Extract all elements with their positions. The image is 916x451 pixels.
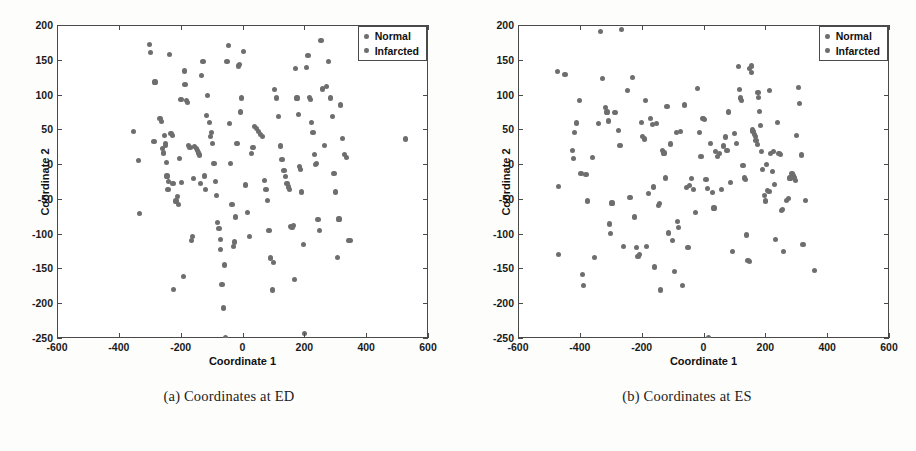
scatter-point: [654, 121, 659, 126]
scatter-point: [695, 86, 700, 91]
x-tick-mark: [428, 25, 429, 30]
scatter-point: [176, 202, 181, 207]
scatter-point: [204, 113, 209, 118]
y-tick-mark: [423, 199, 428, 200]
scatter-point: [250, 145, 255, 150]
scatter-point: [333, 189, 338, 194]
scatter-point: [689, 176, 694, 181]
scatter-point: [170, 181, 175, 186]
scatter-point: [283, 174, 288, 179]
x-tick-label: 600: [419, 341, 437, 353]
scatter-point: [678, 129, 683, 134]
scatter-point: [698, 154, 703, 159]
scatter-point: [287, 187, 292, 192]
scatter-point: [249, 151, 254, 156]
scatter-point: [621, 244, 626, 249]
legend-item-infarcted[interactable]: Infarcted: [825, 46, 880, 57]
scatter-point: [744, 232, 749, 237]
scatter-point: [309, 120, 314, 125]
scatter-point: [308, 97, 313, 102]
scatter-point: [670, 238, 675, 243]
scatter-point: [685, 245, 690, 250]
scatter-point: [708, 141, 713, 146]
scatter-point: [719, 187, 724, 192]
y-tick-mark: [884, 129, 889, 130]
scatter-point: [270, 287, 275, 292]
x-tick-mark: [57, 333, 58, 338]
scatter-point: [318, 38, 323, 43]
x-tick-mark: [642, 333, 643, 338]
legend-item-normal[interactable]: Normal: [825, 31, 880, 42]
scatter-point: [170, 133, 175, 138]
legend-item-normal[interactable]: Normal: [364, 31, 419, 42]
scatter-point: [185, 100, 190, 105]
x-tick-label: 200: [296, 341, 314, 353]
scatter-point: [328, 95, 333, 100]
scatter-point: [764, 162, 769, 167]
scatter-point: [223, 335, 228, 338]
scatter-point: [574, 120, 579, 125]
x-tick-mark: [428, 333, 429, 338]
scatter-point: [304, 65, 309, 70]
scatter-point: [296, 112, 301, 117]
scatter-point: [556, 184, 561, 189]
scatter-canvas-a: [57, 25, 428, 338]
scatter-point: [613, 110, 618, 115]
scatter-point: [238, 109, 243, 114]
scatter-point: [680, 283, 685, 288]
scatter-point: [797, 101, 802, 106]
scatter-point: [717, 151, 722, 156]
scatter-point: [767, 88, 772, 93]
scatter-point: [200, 59, 205, 64]
scatter-point: [161, 150, 166, 155]
x-axis-title-b: Coordinate 1: [518, 355, 889, 367]
scatter-point: [739, 98, 744, 103]
y-tick-mark: [884, 164, 889, 165]
scatter-point: [305, 53, 310, 58]
y-tick-mark: [518, 268, 523, 269]
y-tick-mark: [423, 234, 428, 235]
scatter-point: [759, 149, 764, 154]
y-tick-mark: [57, 234, 62, 235]
scatter-point: [639, 120, 644, 125]
scatter-point: [340, 136, 345, 141]
legend-item-infarcted[interactable]: Infarcted: [364, 46, 419, 57]
y-axis-title-a: Coordinate 2: [39, 148, 51, 215]
y-tick-mark: [518, 303, 523, 304]
y-tick-mark: [57, 199, 62, 200]
scatter-point: [272, 87, 277, 92]
scatter-point: [637, 252, 642, 257]
scatter-point: [181, 274, 186, 279]
scatter-point: [799, 152, 804, 157]
x-tick-mark: [243, 333, 244, 338]
scatter-point: [590, 155, 595, 160]
x-tick-label: -400: [569, 341, 590, 353]
scatter-point: [800, 242, 805, 247]
scatter-point: [627, 195, 632, 200]
scatter-point: [803, 198, 808, 203]
scatter-point: [651, 184, 656, 189]
scatter-point: [403, 136, 408, 141]
scatter-point: [705, 186, 710, 191]
figure-two-panel-scatter: 200150100500-50-100-150-200-250-600-400-…: [0, 0, 916, 451]
scatter-point: [301, 242, 306, 247]
scatter-point: [281, 168, 286, 173]
x-tick-mark: [704, 333, 705, 338]
scatter-point: [202, 173, 207, 178]
scatter-point: [164, 173, 169, 178]
scatter-point: [664, 104, 669, 109]
scatter-point: [330, 114, 335, 119]
scatter-point: [136, 158, 141, 163]
scatter-point: [247, 234, 252, 239]
scatter-point: [163, 143, 168, 148]
panel-a: 200150100500-50-100-150-200-250-600-400-…: [0, 0, 458, 451]
scatter-point: [260, 134, 265, 139]
scatter-point: [732, 131, 737, 136]
scatter-point: [747, 259, 752, 264]
scatter-point: [693, 210, 698, 215]
scatter-point: [219, 282, 224, 287]
scatter-point: [279, 157, 284, 162]
scatter-point: [165, 187, 170, 192]
scatter-point: [736, 64, 741, 69]
scatter-point: [781, 249, 786, 254]
